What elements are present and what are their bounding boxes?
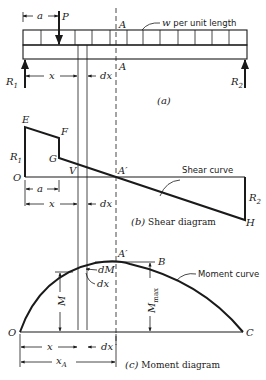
point-load-label: P bbox=[61, 11, 69, 22]
dM-label: dM bbox=[98, 264, 115, 275]
distributed-load-block bbox=[23, 30, 247, 45]
beam-diagram-figure: a P A A w per unit length R1 R2 x dx (a)… bbox=[0, 0, 266, 380]
shear-dim-a-label: a bbox=[37, 183, 43, 194]
moment-dim-dx-label: dx bbox=[101, 341, 113, 352]
moment-caption: (c) Moment diagram bbox=[125, 359, 220, 370]
beam-body bbox=[23, 45, 247, 59]
shear-curve-label: Shear curve bbox=[182, 165, 233, 175]
load-leader-line bbox=[142, 23, 160, 30]
left-reaction-label: R1 bbox=[5, 76, 18, 90]
point-o-label: O bbox=[13, 172, 21, 183]
point-a-prime-shear-label: A′ bbox=[117, 165, 128, 176]
moment-dim-x-label: x bbox=[47, 341, 53, 352]
load-cell-dividers bbox=[41, 30, 229, 45]
moment-point-c-label: C bbox=[246, 327, 254, 338]
point-e-label: E bbox=[21, 114, 30, 125]
section-a-top-label: A bbox=[118, 19, 126, 30]
shear-V-label: V bbox=[69, 165, 78, 176]
dim-a-label: a bbox=[37, 10, 43, 21]
shear-dim-x-label: x bbox=[49, 198, 55, 209]
shear-panel: E F G O R1 V A′ Shear curve R2 H a x dx … bbox=[9, 114, 262, 228]
moment-dx-label: dx bbox=[97, 278, 109, 289]
dM-arrow bbox=[86, 269, 97, 270]
moment-curve-leader bbox=[176, 274, 196, 281]
moment-curve-label: Moment curve bbox=[198, 269, 259, 279]
moment-point-o-label: O bbox=[8, 327, 16, 338]
shear-right-reaction-label: R2 bbox=[248, 192, 262, 206]
load-intensity-label: w per unit length bbox=[162, 17, 236, 28]
dim-x-label: x bbox=[49, 70, 55, 81]
moment-point-b-label: B bbox=[157, 256, 165, 267]
moment-panel: O C A′ B dM dx M Mmax Moment curve x dx … bbox=[8, 248, 259, 370]
point-g-label: G bbox=[49, 153, 57, 164]
right-reaction-label: R2 bbox=[230, 76, 244, 90]
point-f-label: F bbox=[60, 126, 69, 137]
Mmax-label: Mmax bbox=[146, 288, 160, 314]
section-a-bottom-label: A bbox=[118, 61, 126, 72]
shear-caption: (b) Shear diagram bbox=[131, 216, 216, 227]
moment-point-a-prime-label: A′ bbox=[117, 248, 128, 259]
moment-dim-xA-label: xA bbox=[56, 355, 67, 369]
shear-left-reaction-label: R1 bbox=[9, 151, 22, 165]
M-label: M bbox=[56, 295, 67, 307]
point-h-label: H bbox=[245, 217, 255, 228]
dim-dx-label: dx bbox=[100, 70, 112, 81]
shear-dim-dx-label: dx bbox=[100, 198, 112, 209]
beam-caption: (a) bbox=[157, 95, 171, 106]
